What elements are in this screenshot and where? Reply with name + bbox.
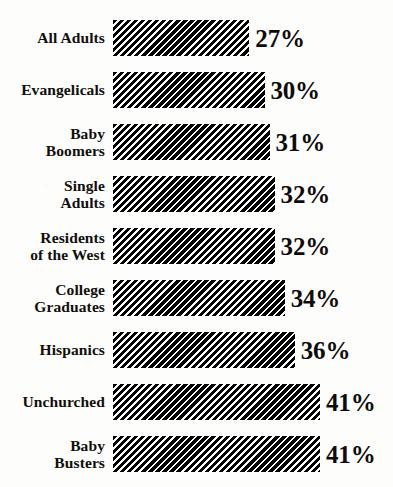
bar-group: 36% — [113, 332, 350, 368]
bar-value-label: 41% — [326, 390, 375, 415]
bar-group: 34% — [113, 280, 340, 316]
bar-value-label: 32% — [281, 182, 330, 207]
bar-chart-row: All Adults27% — [0, 20, 393, 56]
bar — [113, 436, 320, 472]
bar-group: 41% — [113, 436, 375, 472]
bar-category-label: Single Adults — [0, 177, 105, 212]
bar-group: 30% — [113, 72, 320, 108]
bar-chart-row: Baby Busters41% — [0, 436, 393, 472]
bar-category-label: Baby Busters — [0, 437, 105, 472]
bar-value-label: 34% — [291, 286, 340, 311]
bar-category-label: Evangelicals — [0, 81, 105, 99]
bar-category-label: Hispanics — [0, 341, 105, 359]
bar-group: 32% — [113, 228, 330, 264]
bar-chart-row: Baby Boomers31% — [0, 124, 393, 160]
bar-group: 41% — [113, 384, 375, 420]
bar-chart-row: Single Adults32% — [0, 176, 393, 212]
bar-value-label: 27% — [255, 26, 304, 51]
bar-group: 32% — [113, 176, 330, 212]
bar — [113, 332, 295, 368]
bar-category-label: Baby Boomers — [0, 125, 105, 160]
bar-chart-row: College Graduates34% — [0, 280, 393, 316]
bar-chart-row: Evangelicals30% — [0, 72, 393, 108]
bar-category-label: Unchurched — [0, 393, 105, 411]
bar-value-label: 41% — [326, 442, 375, 467]
bar-value-label: 32% — [281, 234, 330, 259]
bar — [113, 124, 270, 160]
bar-category-label: All Adults — [0, 29, 105, 47]
bar-group: 31% — [113, 124, 325, 160]
bar — [113, 20, 249, 56]
bar-chart-row: Hispanics36% — [0, 332, 393, 368]
bar — [113, 176, 275, 212]
bar-chart-row: Unchurched41% — [0, 384, 393, 420]
bar — [113, 280, 285, 316]
bar-value-label: 31% — [276, 130, 325, 155]
bar — [113, 228, 275, 264]
bar-group: 27% — [113, 20, 305, 56]
bar-category-label: Residents of the West — [0, 229, 105, 264]
bar-chart-row: Residents of the West32% — [0, 228, 393, 264]
bar — [113, 72, 265, 108]
bar-value-label: 30% — [271, 78, 320, 103]
bar-chart-rows: All Adults27%Evangelicals30%Baby Boomers… — [0, 0, 393, 487]
bar — [113, 384, 320, 420]
bar-value-label: 36% — [301, 338, 350, 363]
bar-chart: All Adults27%Evangelicals30%Baby Boomers… — [0, 0, 393, 487]
bar-category-label: College Graduates — [0, 281, 105, 316]
